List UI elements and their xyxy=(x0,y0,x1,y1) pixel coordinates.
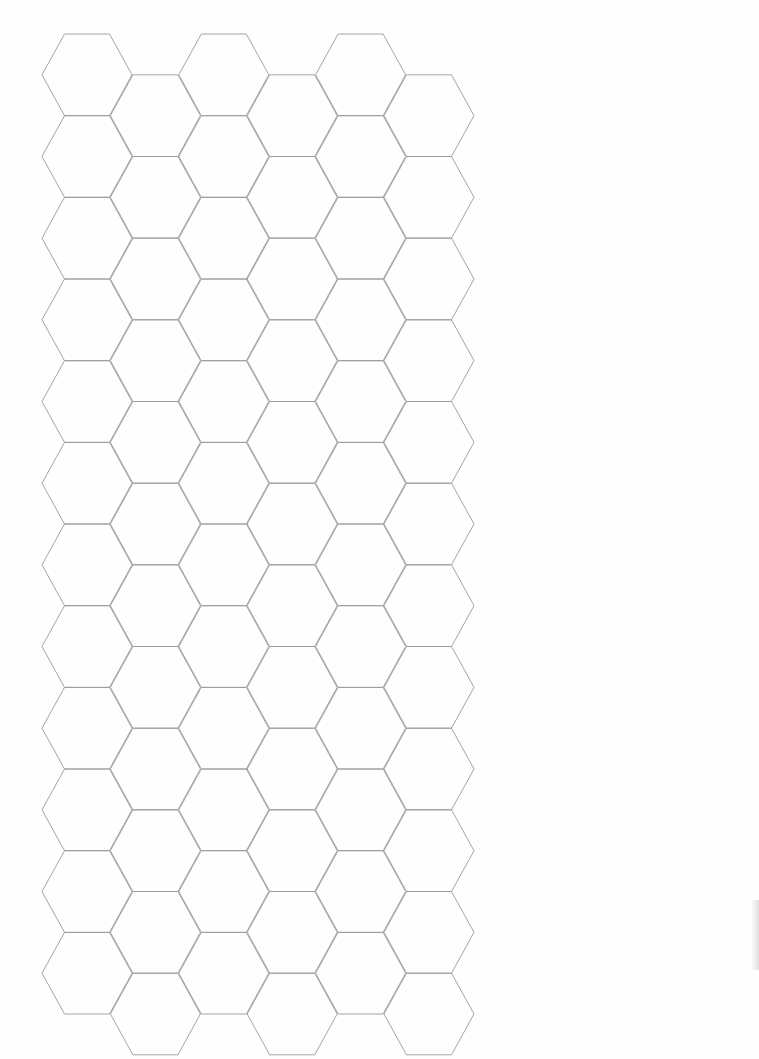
hexagon-cell xyxy=(42,524,132,606)
hexagon-cell xyxy=(384,157,474,239)
hexagon-cell xyxy=(42,687,132,769)
hexagon-cell xyxy=(384,483,474,565)
hexagon-grid xyxy=(0,0,759,1059)
hexagon-cell xyxy=(384,647,474,729)
hexagon-cell xyxy=(110,647,200,729)
hexagon-cell xyxy=(110,892,200,974)
hexagon-cell xyxy=(384,402,474,484)
hexagon-cell xyxy=(316,197,406,279)
hexagon-cell xyxy=(179,197,269,279)
hexagon-cell xyxy=(316,524,406,606)
hexagon-cell xyxy=(384,75,474,157)
hexagon-cell xyxy=(110,483,200,565)
hexagon-cell xyxy=(42,279,132,361)
hexagon-cell xyxy=(179,769,269,851)
hexagon-cell xyxy=(316,851,406,933)
hexagon-cell xyxy=(42,116,132,198)
hexagon-cell xyxy=(179,34,269,116)
hexagon-cell xyxy=(384,973,474,1055)
hexagon-cell xyxy=(247,728,337,810)
hexagon-cell xyxy=(384,892,474,974)
hex-grid-paper xyxy=(0,0,759,1059)
hexagon-cell xyxy=(247,810,337,892)
hexagon-cell xyxy=(247,892,337,974)
hexagon-cell xyxy=(110,320,200,402)
hexagon-cell xyxy=(179,851,269,933)
hexagon-cell xyxy=(247,647,337,729)
hexagon-cell xyxy=(42,606,132,688)
hexagon-cell xyxy=(384,320,474,402)
hexagon-cell xyxy=(110,973,200,1055)
hexagon-cell xyxy=(316,279,406,361)
hexagon-cell xyxy=(179,116,269,198)
hexagon-cell xyxy=(42,442,132,524)
hexagon-cell xyxy=(110,75,200,157)
hexagon-cell xyxy=(110,565,200,647)
hexagon-cell xyxy=(247,565,337,647)
hexagon-cell xyxy=(316,116,406,198)
hexagon-cell xyxy=(110,402,200,484)
hexagon-cell xyxy=(110,728,200,810)
hexagon-cell xyxy=(179,524,269,606)
hexagon-cell xyxy=(42,932,132,1014)
hexagon-cell xyxy=(316,769,406,851)
hexagon-cell xyxy=(384,810,474,892)
hexagon-cell xyxy=(316,687,406,769)
hexagon-cell xyxy=(384,565,474,647)
hexagon-cell xyxy=(247,973,337,1055)
hexagon-cell xyxy=(110,810,200,892)
hexagon-cell xyxy=(42,361,132,443)
hexagon-cell xyxy=(179,279,269,361)
hexagon-cell xyxy=(247,320,337,402)
hexagon-cell xyxy=(247,238,337,320)
hexagon-cell xyxy=(316,932,406,1014)
hexagon-cell xyxy=(247,157,337,239)
hexagon-cell xyxy=(179,442,269,524)
hexagon-cell xyxy=(247,483,337,565)
hexagon-cell xyxy=(42,197,132,279)
hexagon-cell xyxy=(316,606,406,688)
hexagon-cell xyxy=(179,932,269,1014)
hexagon-cell xyxy=(179,687,269,769)
hexagon-cell xyxy=(42,34,132,116)
hexagon-cell xyxy=(179,606,269,688)
hexagon-cell xyxy=(316,442,406,524)
hexagon-cell xyxy=(316,34,406,116)
hexagon-cell xyxy=(384,238,474,320)
hexagon-cell xyxy=(110,157,200,239)
hexagon-cell xyxy=(247,75,337,157)
hexagon-cell xyxy=(110,238,200,320)
hexagon-cell xyxy=(247,402,337,484)
hexagon-cell xyxy=(179,361,269,443)
hexagon-cell xyxy=(42,769,132,851)
hexagon-cell xyxy=(42,851,132,933)
hexagon-cell xyxy=(384,728,474,810)
hexagon-cell xyxy=(316,361,406,443)
